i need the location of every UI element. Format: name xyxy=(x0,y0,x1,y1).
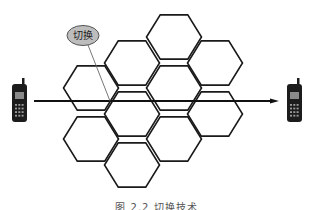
callout-label: 切换 xyxy=(73,29,93,41)
handoff-callout: 切换 xyxy=(67,26,110,102)
destination-phone-icon xyxy=(287,78,302,122)
figure-caption: 图 2.2 切换技术 xyxy=(0,199,313,210)
phones xyxy=(12,78,302,122)
handoff-diagram: 切换 xyxy=(0,0,313,210)
callout-pointer-line xyxy=(88,45,110,101)
source-phone-icon xyxy=(12,78,27,122)
arrowhead-icon xyxy=(270,99,279,104)
